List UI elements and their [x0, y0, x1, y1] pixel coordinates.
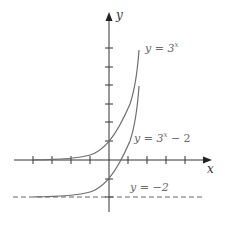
curve-3-to-the-x-minus-2 [34, 86, 139, 197]
asymptote-label: y = −2 [129, 181, 169, 194]
curve2-label: y = 3x − 2 [133, 131, 191, 145]
curve-3-to-the-x [34, 50, 139, 160]
exponential-graph: y x y = 3x y = 3x − 2 y = −2 [0, 0, 231, 226]
curve1-label: y = 3x [144, 41, 178, 55]
y-axis-label: y [115, 8, 123, 22]
y-axis-arrow-icon [106, 12, 113, 21]
x-axis-label: x [207, 162, 214, 176]
